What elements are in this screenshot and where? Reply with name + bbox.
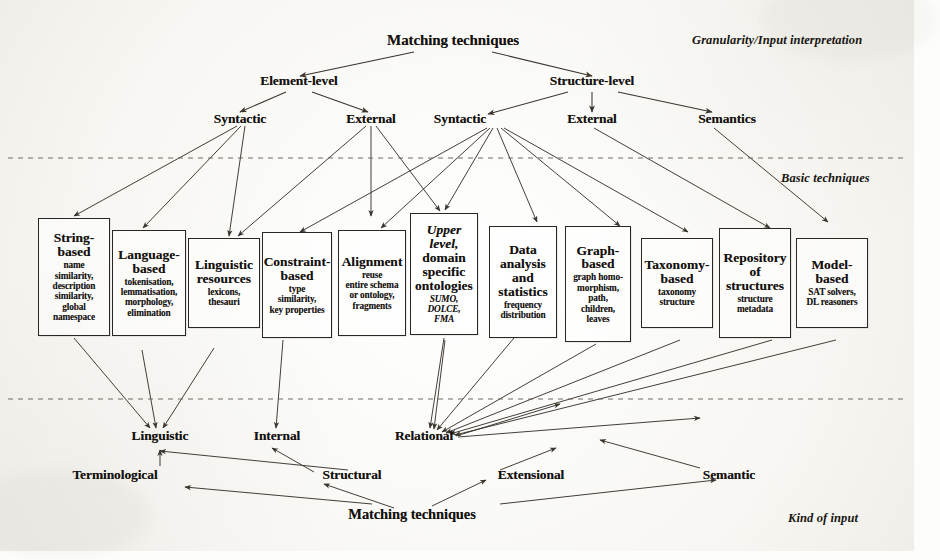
box-language-based[interactable]: Language-based tokenisation,lemmatisatio… [112, 230, 186, 336]
box-subtitle: SAT solvers,DL reasoners [807, 287, 858, 308]
node-semantic: Semantic [703, 468, 755, 482]
box-subtitle: lexicons,thesauri [208, 287, 240, 308]
tier-label-granularity: Granularity/Input interpretation [692, 33, 862, 48]
box-upper-level-ontologies[interactable]: Upperlevel, domainspecificontologies SUM… [410, 213, 478, 335]
box-subtitle: frequencydistribution [500, 300, 545, 321]
node-relational: Relational [395, 429, 453, 443]
node-structure-external: External [567, 112, 616, 126]
box-linguistic-resources[interactable]: Linguisticresources lexicons,thesauri [188, 238, 260, 328]
box-subtitle: reuseentire schemaor ontology,fragments [346, 270, 399, 312]
box-string-based[interactable]: String-based namesimilarity,descriptions… [38, 218, 110, 336]
box-subtitle: graph homo-morphism,path,children,leaves [573, 272, 623, 324]
node-linguistic: Linguistic [132, 429, 189, 443]
box-graph-based[interactable]: Graph-based graph homo-morphism,path,chi… [565, 226, 631, 342]
box-subtitle: taxonomystructure [658, 287, 696, 308]
tier-label-basic: Basic techniques [781, 171, 870, 186]
box-repository-of-structures[interactable]: Repositoryofstructures structuremetadata [719, 228, 791, 338]
box-title: Taxonomy-based [645, 258, 710, 286]
box-title: Upperlevel, [427, 223, 462, 251]
box-model-based[interactable]: Model-based SAT solvers,DL reasoners [796, 238, 868, 328]
box-title: Repositoryofstructures [724, 251, 787, 293]
box-title: Linguisticresources [195, 258, 253, 286]
node-structure-syntactic: Syntactic [434, 112, 486, 126]
node-extensional: Extensional [498, 468, 564, 482]
box-title: Constraint-based [264, 255, 331, 283]
box-title: Alignment [342, 255, 403, 269]
box-title: Language-based [118, 248, 180, 276]
box-title-secondary: domainspecificontologies [415, 251, 473, 293]
box-title: Graph-based [577, 244, 620, 272]
box-title: Model-based [811, 258, 852, 286]
box-subtitle: structuremetadata [737, 294, 773, 315]
box-taxonomy-based[interactable]: Taxonomy-based taxonomystructure [641, 238, 713, 328]
node-root-top: Matching techniques [387, 33, 519, 49]
box-constraint-based[interactable]: Constraint-based typesimilarity,key prop… [262, 232, 332, 338]
node-root-bottom: Matching techniques [348, 507, 475, 522]
node-element-level: Element-level [260, 74, 337, 88]
box-subtitle: SUMO,DOLCE,FMA [428, 294, 461, 325]
node-structural: Structural [323, 468, 382, 482]
paper-smudge [0, 470, 150, 560]
paper-smudge [760, 0, 940, 60]
node-element-external: External [346, 112, 395, 126]
box-title: String-based [54, 231, 95, 259]
node-semantics: Semantics [698, 112, 756, 126]
box-data-analysis-statistics[interactable]: Dataanalysisandstatistics frequencydistr… [489, 226, 557, 338]
box-alignment-reuse[interactable]: Alignment reuseentire schemaor ontology,… [338, 230, 406, 336]
node-structure-level: Structure-level [550, 74, 634, 88]
box-subtitle: typesimilarity,key properties [270, 284, 325, 315]
box-subtitle: namesimilarity,descriptionsimilarity,glo… [53, 260, 96, 322]
tier-label-kind: Kind of input [788, 511, 858, 526]
node-element-syntactic: Syntactic [214, 112, 266, 126]
node-internal: Internal [254, 429, 300, 443]
box-title: Dataanalysisandstatistics [498, 243, 548, 299]
node-terminological: Terminological [72, 468, 157, 482]
box-subtitle: tokenisation,lemmatisation,morphology,el… [121, 277, 178, 319]
